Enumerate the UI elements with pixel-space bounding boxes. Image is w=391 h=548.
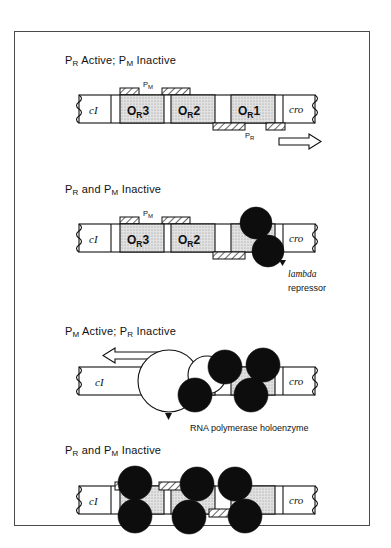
callout-pointer [279, 260, 286, 266]
gene-label-cro: cro [289, 375, 304, 387]
panel-2-diagram: PM cI cro OR3 OR2 lambda [73, 205, 353, 297]
panel-3-title: PM Active; PR Inactive [65, 325, 176, 339]
promoter-pm-block-left [120, 88, 139, 95]
repressor-subunit [118, 499, 152, 533]
promoter-pm-block-left [120, 217, 139, 224]
promoter-pr-block-right [266, 123, 285, 130]
transcription-arrow-right [279, 134, 321, 149]
panel-2-title: PR and PM Inactive [65, 183, 161, 197]
callout-pointer [165, 413, 172, 420]
repressor-subunit [240, 207, 272, 239]
panel-3-diagram: cI cro RNA polymerase holoenzyme [73, 345, 353, 435]
gene-label-ci: cI [95, 376, 105, 388]
repressor-subunit [180, 467, 214, 501]
promoter-pm-label: PM [143, 209, 153, 219]
gene-label-cro: cro [289, 103, 304, 115]
repressor-subunit [218, 467, 252, 501]
promoter-pr-label: PR [245, 131, 255, 141]
gene-label-ci: cI [89, 233, 99, 245]
panel-1-diagram: PM PR cI cro [73, 76, 333, 148]
legend-polymerase-label: RNA polymerase holoenzyme [190, 423, 309, 433]
repressor-subunit [208, 350, 242, 384]
panel-4-title: PR and PM Inactive [65, 444, 161, 458]
figure-frame: PR Active; PM Inactive [14, 31, 370, 526]
repressor-subunit [246, 348, 280, 382]
gene-label-cro: cro [289, 232, 304, 244]
promoter-pr-block-left [213, 252, 245, 259]
gene-label-ci: cI [89, 495, 99, 507]
repressor-subunit [178, 378, 212, 412]
repressor-subunit [234, 378, 268, 412]
repressor-subunit [252, 235, 284, 267]
promoter-pm-block-right [162, 88, 190, 95]
gene-label-cro: cro [289, 494, 304, 506]
panel-1-title: PR Active; PM Inactive [65, 54, 176, 68]
legend-repressor-line1: lambda [288, 269, 317, 279]
repressor-subunit [118, 466, 152, 500]
gene-label-ci: cI [89, 104, 99, 116]
repressor-subunit [172, 500, 206, 534]
promoter-pr-block-left [213, 123, 245, 130]
promoter-pm-block-right [162, 217, 190, 224]
panel-4-diagram: cI cro [73, 464, 353, 544]
promoter-pm-label: PM [143, 80, 153, 90]
repressor-subunit [228, 499, 262, 533]
legend-repressor-line2: repressor [288, 283, 326, 293]
